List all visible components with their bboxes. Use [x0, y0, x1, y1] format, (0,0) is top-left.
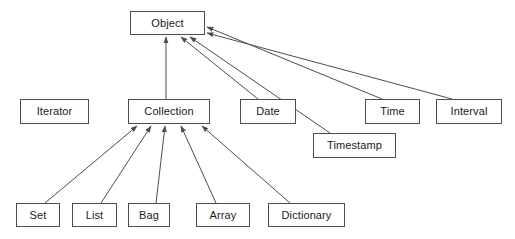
edge-interval-to-object	[207, 33, 452, 99]
edge-date-to-object	[181, 37, 258, 99]
edge-bag-to-collection	[156, 126, 165, 203]
class-label-list: List	[86, 210, 104, 221]
class-box-iterator: Iterator	[20, 99, 89, 124]
class-label-iterator: Iterator	[37, 106, 73, 117]
class-box-list: List	[72, 203, 117, 227]
class-box-timestamp: Timestamp	[313, 133, 396, 158]
class-label-time: Time	[380, 106, 404, 117]
class-label-object: Object	[151, 18, 183, 29]
class-box-object: Object	[130, 11, 205, 35]
class-hierarchy-diagram: ObjectIteratorCollectionDateTimeInterval…	[0, 0, 515, 239]
class-label-timestamp: Timestamp	[327, 140, 382, 151]
edge-time-to-object	[207, 27, 382, 99]
class-box-time: Time	[365, 99, 420, 124]
class-box-dictionary: Dictionary	[268, 203, 345, 227]
class-box-collection: Collection	[128, 99, 210, 124]
class-box-array: Array	[196, 203, 250, 227]
class-label-set: Set	[30, 210, 47, 221]
edge-array-to-collection	[181, 126, 216, 203]
class-label-bag: Bag	[139, 210, 159, 221]
edge-dictionary-to-collection	[202, 126, 290, 203]
edge-list-to-collection	[101, 126, 151, 203]
class-label-date: Date	[256, 106, 280, 117]
class-label-collection: Collection	[144, 106, 193, 117]
class-box-interval: Interval	[436, 99, 502, 124]
edge-set-to-collection	[45, 126, 137, 203]
class-box-set: Set	[16, 203, 60, 227]
class-label-array: Array	[210, 210, 237, 221]
class-label-interval: Interval	[451, 106, 488, 117]
class-label-dictionary: Dictionary	[282, 210, 332, 221]
class-box-date: Date	[240, 99, 296, 124]
class-box-bag: Bag	[128, 203, 170, 227]
